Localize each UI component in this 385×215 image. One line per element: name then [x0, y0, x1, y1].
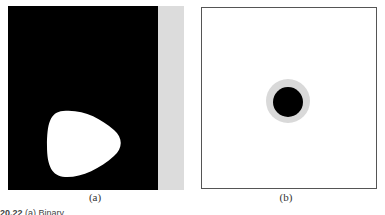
figure-panel-b	[201, 7, 377, 189]
figure-number: 20.22	[0, 208, 23, 215]
figure-caption-text: (a) Binary...	[25, 208, 71, 215]
gray-strip	[158, 6, 184, 190]
figure-panel-a	[8, 6, 184, 190]
panel-a-image	[8, 6, 184, 190]
figure-caption: 20.22 (a) Binary...	[0, 207, 385, 215]
black-disc	[273, 87, 303, 117]
panel-b-label: (b)	[271, 191, 301, 204]
panel-b-image	[202, 8, 376, 188]
panel-a-label: (a)	[80, 191, 110, 204]
